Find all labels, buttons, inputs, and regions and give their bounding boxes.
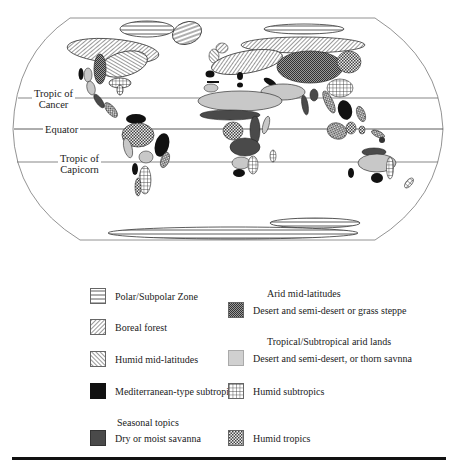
legend-item-savanna: Dry or moist savanna — [90, 430, 201, 446]
map-legend: Polar/Subpolar Zone Boreal forest Humid … — [0, 250, 457, 460]
legend-label-mediterranean: Mediterranean-type subtropic — [115, 386, 234, 397]
tropic-of-capricorn-label-line2: Capicorn — [60, 164, 99, 175]
tropic-of-cancer-label-line1: Tropic of — [34, 88, 73, 99]
tropic-of-capricorn-label-line1: Tropic of — [60, 153, 99, 164]
legend-label-humid-trop: Humid tropics — [253, 433, 311, 444]
light-gray-swatch-icon — [228, 350, 244, 366]
legend-heading-seasonal: Seasonal topics — [117, 417, 179, 428]
legend-heading-trop-arid: Tropical/Subtropical arid lands — [267, 336, 391, 347]
bottom-divider — [12, 457, 446, 460]
legend-label-savanna: Dry or moist savanna — [115, 433, 201, 444]
legend-item-polar: Polar/Subpolar Zone — [90, 288, 198, 304]
dense-checker-swatch-icon — [228, 302, 244, 318]
legend-item-humid-mid: Humid mid-latitudes — [90, 351, 198, 367]
legend-item-humid-trop: Humid tropics — [228, 430, 311, 446]
solid-black-swatch-icon — [90, 383, 106, 399]
legend-item-arid-mid: Desert and semi-desert or grass steppe — [228, 302, 407, 318]
tropic-of-capricorn-label: Tropic of Capicorn — [58, 153, 101, 175]
back-diagonal-lines-swatch-icon — [90, 351, 106, 367]
equator-label: Equator — [43, 124, 80, 135]
legend-heading-arid-mid: Arid mid-latitudes — [267, 288, 341, 299]
cropped-caption — [80, 465, 380, 470]
checker-swatch-icon — [228, 430, 244, 446]
legend-item-boreal: Boreal forest — [90, 319, 167, 335]
legend-item-humid-sub: Humid subtropics — [228, 383, 324, 399]
tropic-of-cancer-label: Tropic of Cancer — [32, 88, 75, 110]
legend-label-humid-sub: Humid subtropics — [253, 386, 324, 397]
legend-label-polar: Polar/Subpolar Zone — [115, 291, 198, 302]
legend-label-arid-mid: Desert and semi-desert or grass steppe — [253, 305, 407, 316]
legend-item-mediterranean: Mediterranean-type subtropic — [90, 383, 234, 399]
legend-item-trop-arid: Desert and semi-desert, or thorn savnna — [228, 350, 412, 366]
dark-gray-swatch-icon — [90, 430, 106, 446]
legend-label-boreal: Boreal forest — [115, 322, 167, 333]
grid-swatch-icon — [228, 383, 244, 399]
legend-label-humid-mid: Humid mid-latitudes — [115, 354, 198, 365]
diagonal-lines-swatch-icon — [90, 319, 106, 335]
legend-label-trop-arid: Desert and semi-desert, or thorn savnna — [253, 353, 412, 364]
horizontal-lines-swatch-icon — [90, 288, 106, 304]
tropic-of-cancer-label-line2: Cancer — [34, 99, 73, 110]
